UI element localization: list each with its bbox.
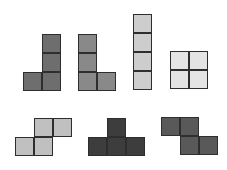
block-cell [42,72,61,91]
block-cell [133,33,152,52]
block-cell [97,72,116,91]
block-cell [107,118,126,137]
block-cell [189,70,208,89]
block-cell [88,137,107,156]
block-cell [42,53,61,72]
block-cell [78,53,97,72]
block-cell [23,72,42,91]
block-cell [78,72,97,91]
block-cell [78,34,97,53]
block-cell [133,52,152,71]
block-cell [53,118,72,137]
block-cell [189,51,208,70]
block-cell [199,136,218,155]
block-cell [107,137,126,156]
block-cell [180,136,199,155]
block-cell [34,118,53,137]
block-cell [133,71,152,90]
block-cell [15,137,34,156]
block-cell [126,137,145,156]
block-cell [34,137,53,156]
block-cell [42,34,61,53]
block-cell [133,14,152,33]
block-cell [170,70,189,89]
block-cell [161,117,180,136]
block-cell [180,117,199,136]
block-cell [170,51,189,70]
